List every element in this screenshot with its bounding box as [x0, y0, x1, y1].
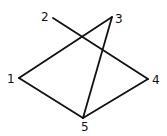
- node-label-4: 4: [152, 73, 160, 87]
- node-label-1: 1: [7, 72, 15, 86]
- graph-diagram: 12345: [0, 0, 167, 136]
- edges: [19, 17, 148, 118]
- node-label-3: 3: [115, 12, 123, 26]
- edge-2-4: [53, 18, 148, 79]
- node-label-2: 2: [41, 10, 49, 24]
- node-label-5: 5: [81, 120, 89, 134]
- edge-1-5: [19, 78, 83, 118]
